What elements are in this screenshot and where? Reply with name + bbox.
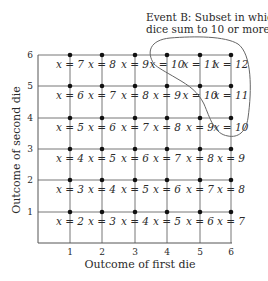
x-tick-label: 6: [228, 247, 234, 257]
x-tick-label: 3: [132, 247, 138, 257]
sum-label: x = 9: [217, 152, 245, 164]
sum-label: x = 8: [217, 183, 245, 195]
sum-label: x = 8: [121, 89, 149, 101]
sample-point: [100, 210, 105, 215]
sample-point: [198, 84, 203, 89]
sum-label: x = 7: [186, 183, 214, 195]
sample-point: [133, 210, 138, 215]
sample-point: [100, 84, 105, 89]
sum-label: x = 6: [56, 89, 84, 101]
sum-label: x = 5: [121, 183, 149, 195]
sample-point: [198, 53, 203, 58]
sample-point: [133, 147, 138, 152]
sum-label: x = 6: [186, 215, 214, 227]
sample-point: [229, 178, 234, 183]
sample-point: [229, 147, 234, 152]
sum-label: x = 4: [88, 183, 116, 195]
sample-point: [68, 178, 73, 183]
sum-label: x = 7: [88, 89, 116, 101]
sample-point: [68, 116, 73, 121]
y-axis-label: Outcome of second die: [10, 86, 23, 214]
sum-label: x = 9: [186, 121, 214, 133]
sum-label: x = 6: [121, 152, 149, 164]
sample-point: [165, 210, 170, 215]
sum-label: x = 3: [56, 183, 84, 195]
sample-point: [165, 178, 170, 183]
sum-label: x = 5: [153, 215, 181, 227]
sum-label: x = 12: [214, 58, 249, 70]
event-b-title-line2: dice sum to 10 or more: [146, 23, 268, 35]
sum-label: x = 3: [88, 215, 116, 227]
sum-label: x = 7: [217, 215, 245, 227]
x-axis-label: Outcome of first die: [84, 258, 195, 271]
sample-point: [165, 53, 170, 58]
sample-point: [198, 147, 203, 152]
sample-point: [229, 84, 234, 89]
sum-label: x = 10: [150, 58, 185, 70]
sample-point: [229, 116, 234, 121]
sample-point: [229, 53, 234, 58]
sample-point: [229, 210, 234, 215]
sum-label: x = 7: [121, 121, 149, 133]
sample-point: [68, 147, 73, 152]
sample-point: [198, 210, 203, 215]
sum-label: x = 6: [88, 121, 116, 133]
sum-label: x = 2: [56, 215, 84, 227]
sample-point: [133, 116, 138, 121]
sum-label: x = 4: [56, 152, 84, 164]
y-tick-label: 5: [27, 81, 33, 91]
sample-point: [133, 178, 138, 183]
dice-sample-space-diagram: x = 7x = 8x = 9x = 10x = 11x = 12x = 6x …: [0, 0, 268, 281]
sum-labels: x = 7x = 8x = 9x = 10x = 11x = 12x = 6x …: [56, 58, 249, 227]
y-tick-label: 2: [27, 175, 33, 185]
event-b-title-line1: Event B: Subset in which: [146, 11, 268, 23]
sum-label: x = 8: [153, 121, 181, 133]
y-tick-label: 6: [27, 50, 33, 60]
sum-label: x = 8: [88, 58, 116, 70]
sample-point: [100, 178, 105, 183]
sum-label: x = 8: [186, 152, 214, 164]
sum-label: x = 6: [153, 183, 181, 195]
sample-point: [133, 53, 138, 58]
sample-point: [68, 53, 73, 58]
sum-label: x = 9: [121, 58, 149, 70]
y-tick-label: 1: [27, 207, 33, 217]
sample-point: [198, 116, 203, 121]
sample-point: [68, 84, 73, 89]
sample-point: [100, 116, 105, 121]
sum-label: x = 7: [56, 58, 84, 70]
sum-label: x = 7: [153, 152, 181, 164]
sample-point: [68, 210, 73, 215]
sum-label: x = 4: [121, 215, 149, 227]
sample-point: [165, 147, 170, 152]
sum-label: x = 9: [153, 89, 181, 101]
sample-point: [133, 84, 138, 89]
sum-label: x = 11: [214, 89, 249, 101]
x-tick-label: 4: [164, 247, 170, 257]
sum-label: x = 5: [88, 152, 116, 164]
sample-point: [165, 116, 170, 121]
sample-point: [198, 178, 203, 183]
sample-point: [165, 84, 170, 89]
x-tick-label: 5: [197, 247, 203, 257]
sum-label: x = 10: [183, 89, 218, 101]
sum-label: x = 5: [56, 121, 84, 133]
y-tick-label: 3: [27, 144, 33, 154]
x-tick-label: 2: [99, 247, 105, 257]
x-tick-label: 1: [67, 247, 73, 257]
sum-label: x = 11: [183, 58, 218, 70]
sample-point: [100, 147, 105, 152]
y-tick-label: 4: [27, 113, 33, 123]
sample-point: [100, 53, 105, 58]
